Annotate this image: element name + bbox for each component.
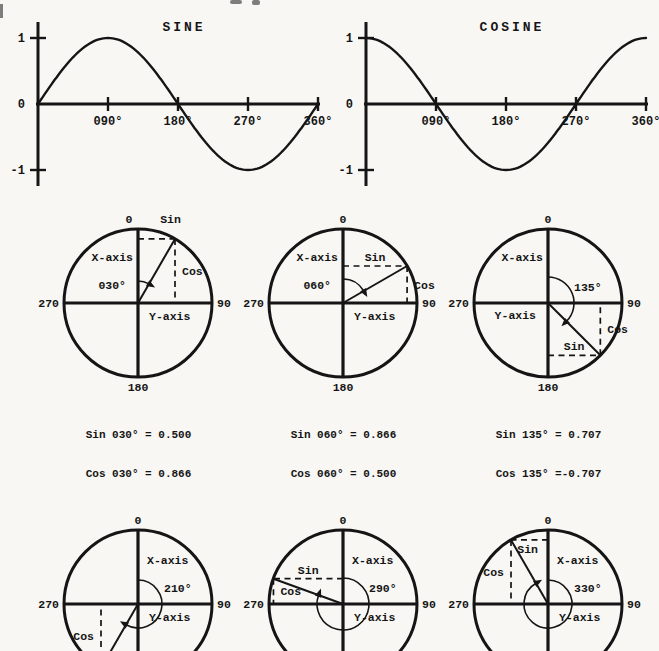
chart-title: COSINE xyxy=(480,20,545,35)
bearing-270-label: 270 xyxy=(448,297,469,310)
sin-component-label: Sin xyxy=(298,564,319,577)
bearing-90-label: 90 xyxy=(422,297,436,310)
x-axis-name-label: X-axis xyxy=(502,251,544,264)
y-axis-name-label: Y-axis xyxy=(354,310,396,323)
chart-title: SINE xyxy=(162,20,205,35)
sin-value-line: Sin 135° = 0.707 xyxy=(496,429,602,442)
circle-diagram-panel: 018090270X-axisY-axis060°SinCos Sin 060°… xyxy=(241,206,446,507)
x-axis-name-label: X-axis xyxy=(557,554,599,567)
radius-vector-line xyxy=(138,239,175,303)
bearing-270-label: 270 xyxy=(38,297,59,310)
circle-diagram-panel: 018090270X-axisY-axis330°SinCos Sin 330°… xyxy=(446,507,651,651)
y-axis-name-label: Y-axis xyxy=(354,611,396,624)
angle-arc xyxy=(138,281,149,284)
sine-curve-chart: 10-1090°180°270°360°SINE xyxy=(4,6,328,198)
trig-values-caption: Sin 030° = 0.500 Cos 030° = 0.866 xyxy=(86,403,192,507)
compass-circle-svg: 018090270X-axisY-axis030°SinCos xyxy=(36,206,241,402)
x-axis-name-label: X-axis xyxy=(147,554,189,567)
y-tick-label: -1 xyxy=(11,164,25,178)
y-axis-name-label: Y-axis xyxy=(149,310,191,323)
circle-diagram-panel: 018090270X-axisY-axis030°SinCos Sin 030°… xyxy=(36,206,241,507)
compass-circle-svg: 018090270X-axisY-axis330°SinCos xyxy=(446,507,651,651)
bearing-180-label: 180 xyxy=(538,381,559,394)
bearing-0-label: 0 xyxy=(545,514,552,527)
angle-value-label: 290° xyxy=(369,582,397,595)
sin-component-label: Sin xyxy=(564,340,585,353)
sin-component-label: Sin xyxy=(365,251,386,264)
y-axis-name-label: Y-axis xyxy=(149,611,191,624)
bearing-90-label: 90 xyxy=(627,598,641,611)
sin-value-line: Sin 060° = 0.866 xyxy=(291,429,397,442)
bearing-270-label: 270 xyxy=(448,598,469,611)
bearing-90-label: 90 xyxy=(422,598,436,611)
scan-artifact xyxy=(252,0,260,5)
scan-artifact xyxy=(230,0,242,4)
scan-artifact xyxy=(0,4,3,18)
scanned-trigonometry-figure-page: 10-1090°180°270°360°SINE 10-1090°180°270… xyxy=(0,0,659,651)
bearing-0-label: 0 xyxy=(340,213,347,226)
angle-value-label: 210° xyxy=(164,582,192,595)
y-tick-label: 0 xyxy=(18,98,25,112)
cosine-curve-chart: 10-1090°180°270°360°COSINE xyxy=(332,6,656,198)
angle-value-label: 030° xyxy=(98,279,126,292)
cos-component-label: Cos xyxy=(182,265,203,278)
y-tick-label: 0 xyxy=(346,98,353,112)
bearing-180-label: 180 xyxy=(333,381,354,394)
bearing-270-label: 270 xyxy=(243,598,264,611)
trig-values-caption: Sin 060° = 0.866 Cos 060° = 0.500 xyxy=(291,403,397,507)
bearing-0-label: 0 xyxy=(126,213,133,226)
bearing-90-label: 90 xyxy=(627,297,641,310)
x-tick-label: 180° xyxy=(492,115,521,129)
bearing-0-label: 0 xyxy=(135,514,142,527)
bearing-90-label: 90 xyxy=(217,598,231,611)
circle-diagram-panel: 018090270X-axisY-axis290°SinCos Sin 290°… xyxy=(241,507,446,651)
cos-component-label: Cos xyxy=(483,566,504,579)
compass-circle-svg: 018090270X-axisY-axis290°SinCos xyxy=(241,507,446,651)
cos-component-label: Cos xyxy=(73,630,94,643)
sin-component-label: Sin xyxy=(517,543,538,556)
compass-circle-svg: 018090270X-axisY-axis060°SinCos xyxy=(241,206,446,402)
compass-circle-svg: 018090270X-axisY-axis210°SinCos xyxy=(36,507,241,651)
bearing-90-label: 90 xyxy=(217,297,231,310)
bearing-270-label: 270 xyxy=(38,598,59,611)
circle-diagram-panel: 018090270X-axisY-axis210°SinCos Sin 210°… xyxy=(36,507,241,651)
cos-component-label: Cos xyxy=(414,279,435,292)
trig-values-caption: Sin 135° = 0.707 Cos 135° =-0.707 xyxy=(496,403,602,507)
bearing-0-label: 0 xyxy=(545,213,552,226)
bearing-180-label: 180 xyxy=(128,381,149,394)
cos-component-label: Cos xyxy=(280,585,301,598)
compass-circle-svg: 018090270X-axisY-axis135°SinCos xyxy=(446,206,651,402)
compass-circle-diagram-grid: 018090270X-axisY-axis030°SinCos Sin 030°… xyxy=(0,206,659,651)
radius-vector-line xyxy=(343,266,407,303)
bearing-0-label: 0 xyxy=(340,514,347,527)
x-tick-label: 360° xyxy=(632,115,659,129)
cos-value-line: Cos 135° =-0.707 xyxy=(496,468,602,481)
y-tick-label: 1 xyxy=(346,32,353,46)
x-axis-name-label: X-axis xyxy=(297,251,339,264)
cos-value-line: Cos 060° = 0.500 xyxy=(291,468,397,481)
sin-value-line: Sin 030° = 0.500 xyxy=(86,429,192,442)
x-tick-label: 270° xyxy=(234,115,263,129)
bearing-270-label: 270 xyxy=(243,297,264,310)
x-tick-label: 090° xyxy=(94,115,123,129)
cos-value-line: Cos 030° = 0.866 xyxy=(86,468,192,481)
y-axis-name-label: Y-axis xyxy=(559,611,601,624)
x-axis-name-label: X-axis xyxy=(352,554,394,567)
cos-component-label: Cos xyxy=(607,323,628,336)
sin-component-label: Sin xyxy=(160,213,181,226)
y-tick-label: 1 xyxy=(18,32,25,46)
angle-value-label: 330° xyxy=(574,582,602,595)
angle-value-label: 135° xyxy=(574,281,602,294)
y-tick-label: -1 xyxy=(339,164,353,178)
angle-arc xyxy=(343,279,364,291)
circle-diagram-panel: 018090270X-axisY-axis135°SinCos Sin 135°… xyxy=(446,206,651,507)
x-axis-name-label: X-axis xyxy=(92,251,134,264)
angle-value-label: 060° xyxy=(303,279,331,292)
trig-curves-row: 10-1090°180°270°360°SINE 10-1090°180°270… xyxy=(0,0,659,198)
y-axis-name-label: Y-axis xyxy=(495,309,537,322)
